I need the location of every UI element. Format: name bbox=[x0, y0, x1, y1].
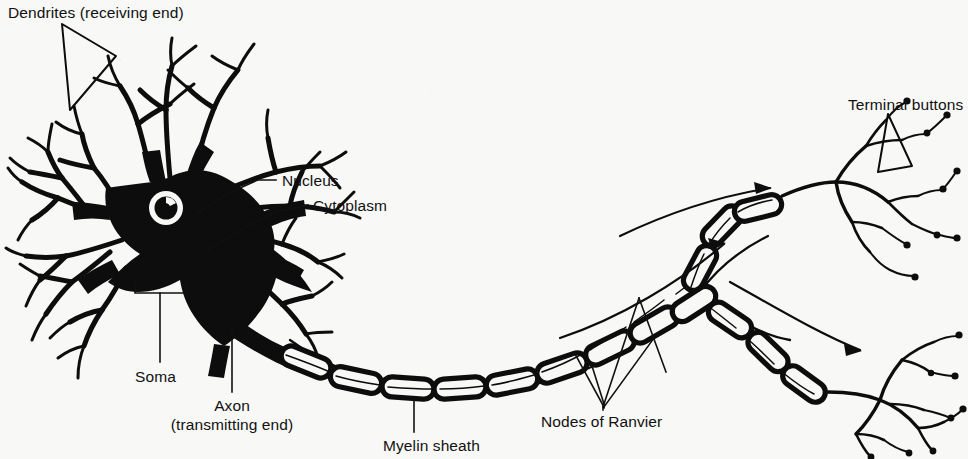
label-dendrites: Dendrites (receiving end) bbox=[8, 4, 184, 21]
neuron-illustration: Dendrites (receiving end) Nucleus Cytopl… bbox=[0, 0, 968, 459]
label-soma: Soma bbox=[135, 368, 176, 385]
label-myelin-sheath: Myelin sheath bbox=[383, 437, 480, 454]
label-axon-line1: Axon bbox=[214, 397, 250, 414]
label-cytoplasm: Cytoplasm bbox=[313, 197, 387, 214]
neuron-diagram: Dendrites (receiving end) Nucleus Cytopl… bbox=[0, 0, 968, 459]
label-axon-line2: (transmitting end) bbox=[171, 416, 293, 433]
label-nucleus: Nucleus bbox=[282, 172, 339, 189]
label-nodes-of-ranvier: Nodes of Ranvier bbox=[541, 413, 662, 430]
label-terminal-buttons: Terminal buttons bbox=[848, 96, 963, 113]
